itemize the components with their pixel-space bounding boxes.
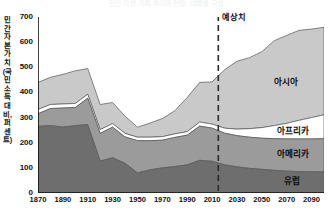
x-tick-1990: 1990 — [173, 196, 201, 204]
x-tick-1910: 1910 — [74, 196, 102, 204]
y-tick-300: 300 — [11, 114, 33, 122]
x-tick-1930: 1930 — [99, 196, 127, 204]
plot-area — [38, 17, 324, 193]
x-tick-1950: 1950 — [123, 196, 151, 204]
series-label-아프리카: 아프리카 — [277, 127, 309, 136]
series-label-아메리카: 아메리카 — [277, 150, 309, 159]
series-label-유럽: 유럽 — [284, 177, 300, 186]
area-series-group — [38, 27, 324, 193]
chart-title: 민간 자본 가치 추이와 전망: 대륙별 구성 — [0, 0, 332, 7]
plot-svg — [38, 17, 324, 193]
projection-annotation-label: 예상치 — [222, 13, 246, 22]
x-tick-1970: 1970 — [148, 196, 176, 204]
x-tick-2030: 2030 — [223, 196, 251, 204]
y-tick-400: 400 — [11, 88, 33, 96]
y-tick-500: 500 — [11, 63, 33, 71]
y-tick-700: 700 — [11, 13, 33, 21]
x-tick-2010: 2010 — [198, 196, 226, 204]
x-tick-2050: 2050 — [248, 196, 276, 204]
y-tick-600: 600 — [11, 38, 33, 46]
y-tick-200: 200 — [11, 139, 33, 147]
x-tick-1890: 1890 — [49, 196, 77, 204]
stacked-area-chart: 민간 자본 가치 추이와 전망: 대륙별 구성 민간 자본 가치(국민소득 대비… — [0, 0, 332, 216]
series-label-아시아: 아시아 — [274, 78, 298, 87]
x-tick-2090: 2090 — [298, 196, 326, 204]
y-tick-100: 100 — [11, 164, 33, 172]
x-tick-2070: 2070 — [273, 196, 301, 204]
x-tick-1870: 1870 — [24, 196, 52, 204]
